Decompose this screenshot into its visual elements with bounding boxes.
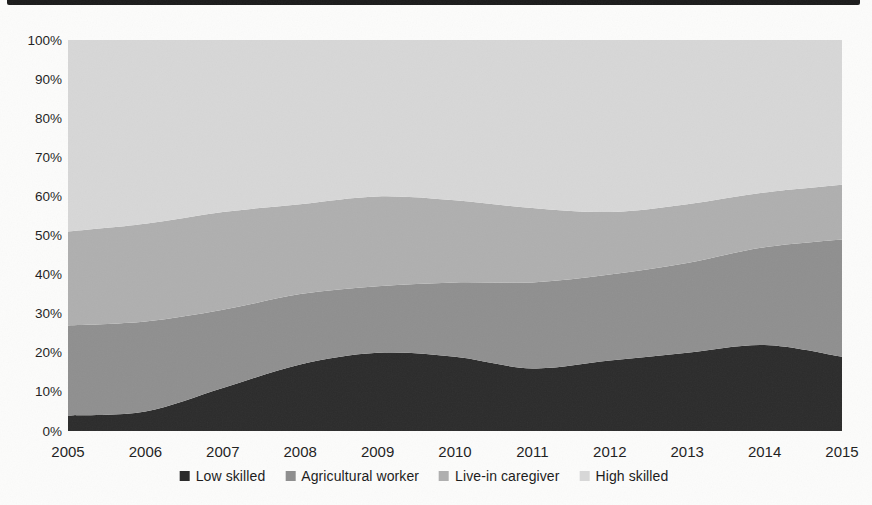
legend-swatch-icon: [439, 471, 449, 481]
legend-swatch-icon: [580, 471, 590, 481]
scanned-page: 0%10%20%30%40%50%60%70%80%90%100%2005200…: [0, 0, 872, 505]
stacked-area-chart: 0%10%20%30%40%50%60%70%80%90%100%2005200…: [0, 0, 872, 505]
legend-item-high-skilled: High skilled: [580, 468, 669, 484]
legend-swatch-icon: [285, 471, 295, 481]
legend-label: High skilled: [596, 468, 669, 484]
legend-label: Low skilled: [196, 468, 266, 484]
legend-item-low-skilled: Low skilled: [180, 468, 266, 484]
legend-label: Live-in caregiver: [455, 468, 559, 484]
legend-item-live-in-caregiver: Live-in caregiver: [439, 468, 559, 484]
scan-grain-overlay: [0, 0, 872, 505]
legend-swatch-icon: [180, 471, 190, 481]
legend-label: Agricultural worker: [301, 468, 419, 484]
legend-item-agricultural-worker: Agricultural worker: [285, 468, 419, 484]
chart-legend: Low skilledAgricultural workerLive-in ca…: [180, 468, 669, 484]
